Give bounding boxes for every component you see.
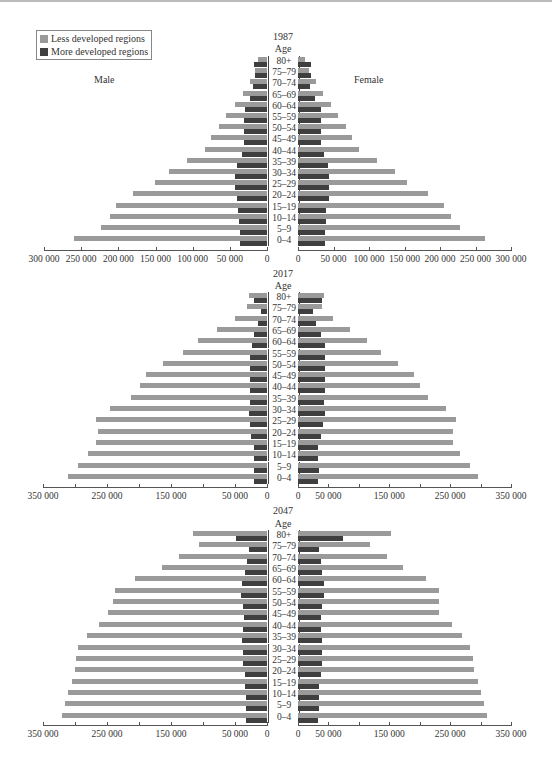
bar-male-less-developed: [96, 417, 267, 422]
bar-male-more-developed: [237, 196, 267, 201]
bar-male-less-developed: [140, 383, 267, 388]
bar-female-less-developed: [298, 679, 478, 684]
bar-male-more-developed: [236, 536, 267, 541]
x-axis-tick: [389, 484, 390, 488]
bar-male-more-developed: [235, 185, 267, 190]
bar-female-more-developed: [298, 219, 326, 224]
x-axis-tick: [511, 247, 512, 251]
bar-male-more-developed: [246, 706, 267, 711]
bar-male-more-developed: [245, 107, 267, 112]
bar-female-more-developed: [298, 129, 321, 134]
age-group-label: 20–24: [268, 428, 300, 439]
bar-female-less-developed: [298, 667, 474, 672]
legend-label-less: Less developed regions: [51, 32, 145, 45]
age-group-label: 0–4: [268, 473, 300, 484]
bar-male-more-developed: [250, 366, 267, 371]
bar-female-less-developed: [298, 633, 462, 638]
bar-male-more-developed: [250, 422, 267, 427]
x-axis-tick-label: 150 000: [359, 729, 419, 739]
bar-male-more-developed: [254, 298, 267, 303]
bar-male-more-developed: [261, 309, 267, 314]
age-group-label: 0–4: [268, 235, 300, 246]
bar-male-more-developed: [245, 684, 267, 689]
bar-male-less-developed: [110, 406, 267, 411]
age-group-label: 45–49: [268, 609, 300, 620]
x-axis-female: [298, 487, 511, 488]
bar-male-less-developed: [75, 667, 267, 672]
x-axis-tick: [43, 722, 44, 726]
bar-male-more-developed: [243, 627, 267, 632]
age-axis-label: Age: [253, 43, 313, 54]
x-axis-tick: [203, 484, 204, 488]
age-group-label: 35–39: [268, 394, 300, 405]
bar-female-less-developed: [298, 451, 460, 456]
bar-female-more-developed: [298, 695, 319, 700]
bar-male-more-developed: [242, 152, 267, 157]
bar-female-more-developed: [298, 638, 322, 643]
x-axis-tick-label: 50 000: [298, 729, 358, 739]
bar-female-more-developed: [298, 185, 329, 190]
age-group-label: 80+: [268, 530, 300, 541]
bar-female-more-developed: [298, 62, 311, 67]
bar-female-less-developed: [298, 645, 470, 650]
x-axis-tick: [81, 247, 82, 251]
x-axis-tick: [139, 484, 140, 488]
bar-male-less-developed: [74, 236, 267, 241]
x-axis-tick-label: 250 000: [77, 729, 137, 739]
age-group-label: 70–74: [268, 78, 300, 89]
chart-title-year: 1987: [253, 31, 313, 42]
bar-female-more-developed: [298, 570, 322, 575]
female-label: Female: [354, 74, 383, 85]
x-axis-tick: [230, 247, 231, 251]
chart-title-year: 2017: [253, 268, 313, 279]
bar-female-more-developed: [298, 208, 326, 213]
bar-male-more-developed: [243, 604, 267, 609]
bar-male-more-developed: [242, 581, 267, 586]
bar-female-more-developed: [298, 422, 323, 427]
x-axis-tick: [107, 484, 108, 488]
bar-female-more-developed: [298, 377, 325, 382]
x-axis-tick: [139, 722, 140, 726]
bar-female-more-developed: [298, 230, 325, 235]
age-group-label: 75–79: [268, 541, 300, 552]
bar-female-more-developed: [298, 298, 322, 303]
x-axis-tick: [450, 484, 451, 488]
bar-male-less-developed: [131, 395, 267, 400]
bar-female-less-developed: [298, 690, 481, 695]
bar-male-more-developed: [254, 479, 267, 484]
legend-label-more: More developed regions: [51, 45, 148, 58]
bar-female-more-developed: [298, 388, 325, 393]
age-group-label: 80+: [268, 292, 300, 303]
bar-male-more-developed: [247, 559, 267, 564]
chart-title-year: 2047: [253, 505, 313, 516]
bar-female-more-developed: [298, 355, 325, 360]
x-axis-tick: [420, 722, 421, 726]
x-axis-tick: [267, 484, 268, 488]
bar-female-more-developed: [298, 107, 321, 112]
bar-female-more-developed: [298, 456, 318, 461]
x-axis-tick: [369, 247, 370, 251]
bar-male-less-developed: [68, 474, 267, 479]
x-axis-tick: [156, 247, 157, 251]
age-group-label: 40–44: [268, 621, 300, 632]
bar-male-less-developed: [78, 645, 267, 650]
x-axis-tick: [420, 484, 421, 488]
bar-female-more-developed: [298, 321, 316, 326]
x-axis-tick-label: 250 000: [420, 729, 480, 739]
bar-female-less-developed: [298, 701, 484, 706]
legend-swatch-less: [40, 35, 48, 43]
x-axis-tick: [298, 722, 299, 726]
bar-female-less-developed: [298, 429, 453, 434]
x-axis-tick: [235, 484, 236, 488]
bar-female-more-developed: [298, 615, 321, 620]
bar-female-more-developed: [298, 559, 321, 564]
age-group-label: 40–44: [268, 382, 300, 393]
bar-male-more-developed: [244, 118, 267, 123]
bar-male-less-developed: [87, 633, 267, 638]
bar-male-more-developed: [241, 593, 267, 598]
x-axis-tick-label: 250 000: [77, 491, 137, 501]
bar-female-more-developed: [298, 581, 324, 586]
age-group-label: 0–4: [268, 712, 300, 723]
bar-male-more-developed: [245, 672, 267, 677]
bar-male-more-developed: [245, 570, 267, 575]
